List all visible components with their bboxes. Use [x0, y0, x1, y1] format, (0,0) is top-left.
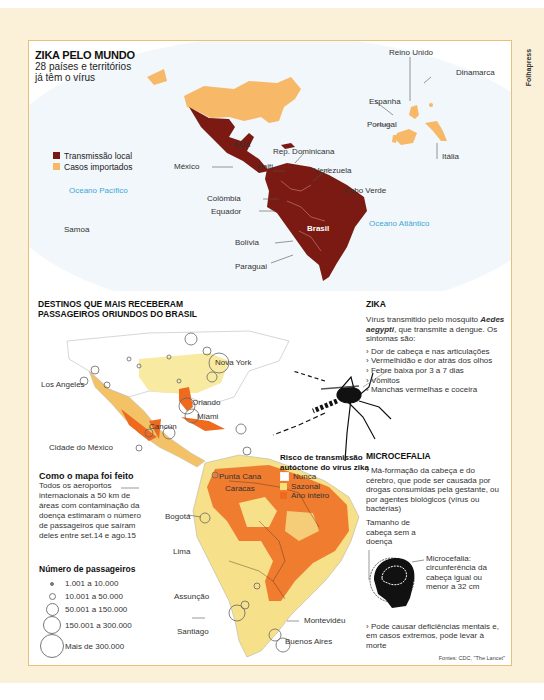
nunca-swatch [280, 472, 289, 481]
sources: Fontes: CDC, "The Lancet" [439, 655, 505, 661]
passengers-label: 150.001 a 300.000 [65, 621, 132, 630]
zika-box: ZIKA Vírus transmitido pelo mosquito Aed… [366, 299, 506, 395]
label-punta-cana: Punta Cana [219, 473, 261, 481]
bottom-margin [0, 683, 544, 700]
label-buenos-aires: Buenos Aires [285, 638, 332, 646]
circle-icon [46, 603, 59, 616]
microcefalia-box: MICROCEFALIA › Má-formação da cabeça e d… [366, 451, 506, 654]
infographic-frame: ZIKA PELO MUNDO 28 países e territórios … [28, 40, 512, 666]
how-made-block: Como o mapa foi feito Todos os aeroporto… [39, 471, 149, 541]
passengers-item: 50.001 a 150.000 [39, 603, 169, 616]
passengers-legend: Número de passageiros 1.001 a 10.000 10.… [39, 564, 169, 658]
label-nova-york: Nova York [215, 359, 251, 367]
microcefalia-text-2: › Pode causar deficiências mentais e, em… [366, 622, 506, 651]
symptom-item: › Dor de cabeça e nas articulações [366, 347, 506, 357]
head-label-micro: Microcefalia: circunferência da cabeça i… [426, 554, 502, 592]
zika-title: ZIKA [366, 299, 506, 309]
passengers-label: Mais de 300.000 [65, 642, 124, 651]
how-made-title: Como o mapa foi feito [39, 471, 149, 481]
label-assuncao: Assunção [174, 593, 209, 601]
passengers-legend-title: Número de passageiros [39, 564, 169, 574]
label-bogota: Bogotá [165, 513, 190, 521]
symptom-item: › Vermelhidão e dor atrás dos olhos [366, 356, 506, 366]
zika-intro: Vírus transmitido pelo mosquito Aedes ae… [366, 315, 506, 344]
symptom-item: › Manchas vermelhas e coceira [366, 385, 506, 395]
credit-text: Folhapress [525, 38, 532, 98]
how-made-text: Todos os aeroportos internacionais a 50 … [39, 481, 141, 540]
passengers-item: Mais de 300.000 [39, 634, 169, 658]
microcefalia-text-1: › Má-formação da cabeça e do cérebro, qu… [366, 466, 506, 514]
top-margin [0, 0, 544, 8]
zika-intro-pre: Vírus transmitido pelo mosquito [366, 315, 480, 324]
risk-item-nunca: Nunca [280, 472, 369, 482]
head-label-normal: Tamanho de cabeça sem a doença [366, 518, 436, 547]
circle-icon [49, 593, 56, 600]
label-los-angeles: Los Angeles [41, 381, 85, 389]
label-lima: Lima [173, 548, 190, 556]
risk-item-sazonal: Sazonal [280, 482, 369, 492]
risk-item-ano-inteiro: Ano inteiro [280, 491, 369, 501]
microcefalia-title: MICROCEFALIA [366, 451, 506, 461]
ano-inteiro-swatch [280, 492, 287, 499]
circle-icon [40, 634, 64, 658]
passengers-item: 150.001 a 300.000 [39, 616, 169, 634]
passengers-label: 1.001 a 10.000 [65, 579, 118, 588]
label-caracas: Caracas [225, 485, 255, 493]
risk-label: Sazonal [291, 482, 320, 492]
circle-icon [50, 582, 54, 586]
passengers-item: 1.001 a 10.000 [39, 577, 169, 590]
passengers-label: 50.001 a 150.000 [65, 605, 127, 614]
risk-label: Nunca [293, 472, 316, 482]
head-diagram: Microcefalia: circunferência da cabeça i… [366, 550, 506, 622]
circle-icon [43, 616, 61, 634]
label-montevideu: Montevidéu [304, 617, 345, 625]
risk-legend: Risco de transmissão autóctone do vírus … [280, 453, 369, 501]
risk-title-1: Risco de transmissão [280, 453, 363, 462]
risk-title-2: autóctone do vírus zika [280, 463, 369, 472]
risk-label: Ano inteiro [291, 491, 329, 501]
label-miami: Miami [197, 413, 218, 421]
label-orlando: Orlando [192, 399, 220, 407]
label-cidade-do-mexico: Cidade do México [49, 444, 113, 452]
label-santiago: Santiago [177, 628, 209, 636]
label-cancun: Cancún [149, 423, 177, 431]
credit: Folhapress [520, 42, 534, 102]
sazonal-swatch [280, 483, 287, 490]
passengers-label: 10.001 a 50.000 [65, 592, 123, 601]
passengers-item: 10.001 a 50.000 [39, 590, 169, 603]
symptom-item: › Febre baixa por 3 a 7 dias [366, 366, 506, 376]
symptom-item: › Vômitos [366, 376, 506, 386]
